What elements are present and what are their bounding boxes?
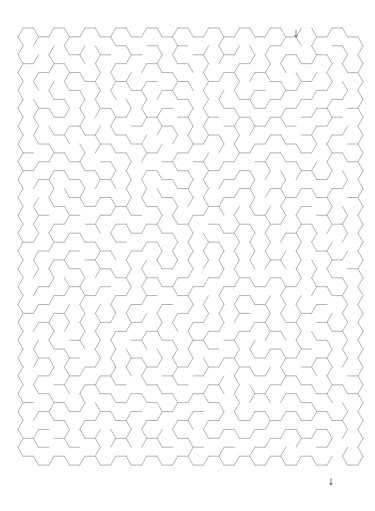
maze-wall-path [18, 28, 363, 465]
maze-walls [18, 28, 363, 465]
exit-arrow-icon [329, 478, 333, 486]
maze-board [0, 0, 375, 511]
